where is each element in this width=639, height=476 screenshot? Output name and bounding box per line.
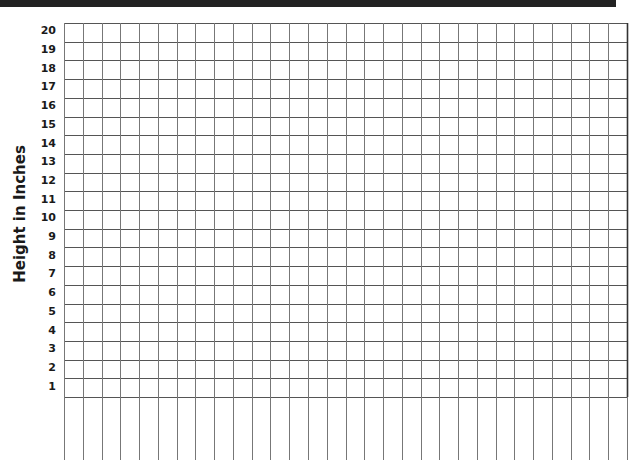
grid-area	[0, 0, 639, 476]
x-axis-title-clipped	[337, 470, 340, 476]
